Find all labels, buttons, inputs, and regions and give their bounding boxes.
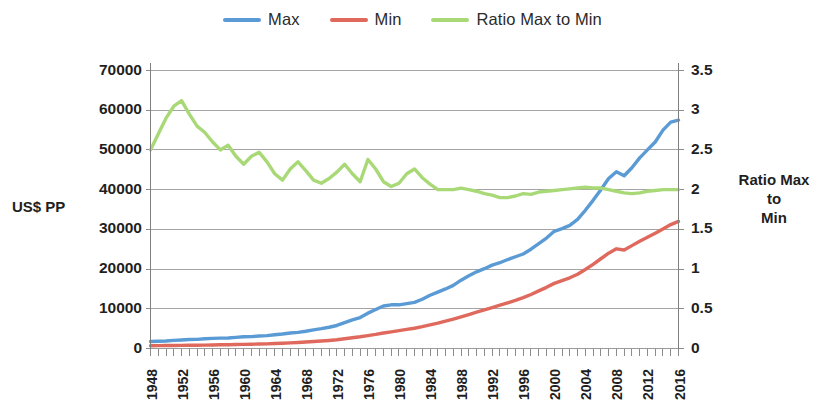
chart-container: Max Min Ratio Max to Min US$ PP Ratio Ma…	[0, 0, 825, 404]
plot-area	[0, 0, 825, 404]
series-line-ratio-max-to-min	[151, 101, 679, 198]
axis-frame	[151, 63, 679, 349]
series-line-min	[151, 221, 679, 345]
x-tick-marks	[151, 349, 679, 356]
y-tick-marks	[146, 71, 684, 349]
gridlines	[151, 71, 679, 349]
